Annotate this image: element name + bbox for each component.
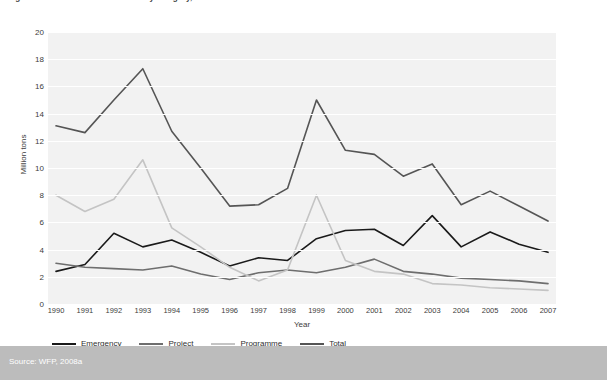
x-axis-label: Year	[48, 320, 556, 329]
y-tick-label: 18	[18, 55, 44, 64]
chart-card: Million tons 02468101214161820 199019911…	[0, 14, 607, 346]
gridline	[48, 86, 556, 87]
x-axis-ticks: 1990199119921993199419951996199719981999…	[48, 306, 556, 318]
y-tick-label: 4	[18, 246, 44, 255]
y-tick-label: 14	[18, 110, 44, 119]
gridline	[48, 277, 556, 278]
legend-swatch-icon	[300, 343, 324, 345]
y-tick-label: 6	[18, 218, 44, 227]
gridline	[48, 59, 556, 60]
x-tick-label: 2007	[531, 306, 565, 315]
plot-area	[48, 32, 556, 304]
series-line-project	[56, 259, 548, 283]
y-tick-label: 16	[18, 82, 44, 91]
legend-swatch-icon	[211, 343, 235, 345]
gridline	[48, 304, 556, 305]
gridline	[48, 114, 556, 115]
y-tick-label: 12	[18, 137, 44, 146]
source-text: Source: WFP, 2008a	[9, 357, 82, 366]
gridline	[48, 195, 556, 196]
y-tick-label: 20	[18, 28, 44, 37]
gridline	[48, 222, 556, 223]
series-line-emergency	[56, 216, 548, 272]
gridline	[48, 250, 556, 251]
gridline	[48, 168, 556, 169]
gridline	[48, 141, 556, 142]
y-axis-ticks: 02468101214161820	[14, 32, 44, 304]
y-tick-label: 2	[18, 273, 44, 282]
y-tick-label: 10	[18, 164, 44, 173]
y-tick-label: 8	[18, 191, 44, 200]
legend-swatch-icon	[52, 343, 76, 345]
figure-title: Figure 1 Global food aid deliveries by c…	[8, 0, 236, 2]
gridline	[48, 32, 556, 33]
source-band: Source: WFP, 2008a	[0, 346, 607, 380]
legend-swatch-icon	[139, 343, 163, 345]
series-line-total	[56, 69, 548, 221]
